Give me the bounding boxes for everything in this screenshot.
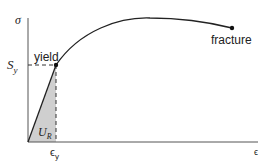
plastic-curve [56, 18, 232, 65]
x-axis-label: ϵ [254, 148, 258, 157]
fracture-label: fracture [211, 34, 252, 46]
yield-strain-label: ϵy [50, 147, 59, 161]
resilience-label: UR [38, 126, 52, 141]
yield-stress-label: Sy [7, 58, 18, 75]
y-axis-label: σ [15, 14, 21, 26]
fracture-point [230, 26, 234, 30]
yield-label: yield [34, 51, 59, 63]
